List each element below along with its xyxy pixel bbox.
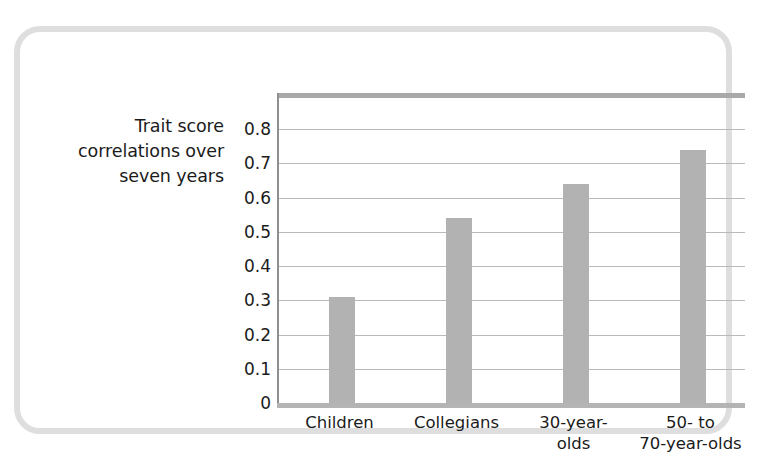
y-axis-tick-label: 0.3 xyxy=(219,290,271,310)
bar-chart-plot-area xyxy=(277,93,745,408)
y-axis-tick-label: 0.1 xyxy=(219,359,271,379)
y-axis-tick-label: 0.4 xyxy=(219,256,271,276)
gridline xyxy=(279,232,745,233)
y-axis-tick-label: 0 xyxy=(219,393,271,413)
gridline xyxy=(279,198,745,199)
bar[interactable] xyxy=(680,150,706,403)
y-axis-tick-label: 0.7 xyxy=(219,153,271,173)
y-axis-tick-labels: 0.80.70.60.50.40.30.20.10 xyxy=(213,93,271,408)
x-axis-tick-label-line-1: 50- to xyxy=(621,412,761,433)
plot-top-rule xyxy=(277,93,745,98)
gridline xyxy=(279,129,745,130)
bar[interactable] xyxy=(446,218,472,403)
x-axis-tick-labels: ChildrenCollegians30-year-olds50- to70-y… xyxy=(277,412,745,462)
y-axis-tick-label: 0.8 xyxy=(219,119,271,139)
gridline xyxy=(279,163,745,164)
y-axis-tick-label: 0.6 xyxy=(219,188,271,208)
y-axis-title-line-3: seven years xyxy=(56,164,224,189)
y-axis-title-line-1: Trait score xyxy=(56,114,224,139)
x-axis-tick-label: 50- to70-year-olds xyxy=(621,412,761,454)
y-axis-tick-label: 0.5 xyxy=(219,222,271,242)
gridline xyxy=(279,266,745,267)
y-axis-title-line-2: correlations over xyxy=(56,139,224,164)
x-axis-tick-label-line-2: 70-year-olds xyxy=(621,433,761,454)
x-axis-spine xyxy=(277,403,745,408)
bar[interactable] xyxy=(563,184,589,403)
bar[interactable] xyxy=(329,297,355,403)
y-axis-title: Trait score correlations over seven year… xyxy=(56,114,224,189)
plot-inner xyxy=(279,129,745,403)
figure-frame: Trait score correlations over seven year… xyxy=(14,26,732,434)
y-axis-tick-label: 0.2 xyxy=(219,325,271,345)
